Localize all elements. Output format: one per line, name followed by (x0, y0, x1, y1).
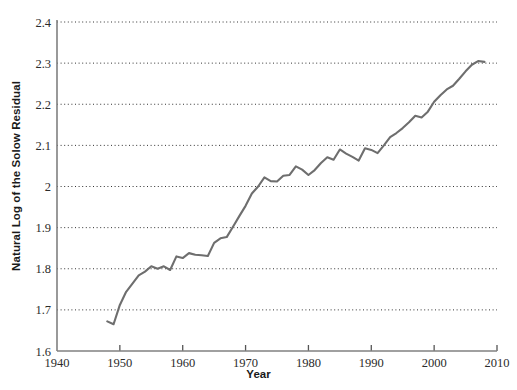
x-tick-label: 1960 (170, 356, 195, 370)
x-tick-label: 2000 (422, 356, 447, 370)
y-tick-labels-group: 1.61.71.81.922.12.22.32.4 (35, 16, 51, 359)
x-tick-labels-group: 19401950196019701980199020002010 (45, 356, 510, 370)
y-tick-label: 1.8 (35, 262, 51, 276)
y-tick-label: 2.1 (35, 139, 51, 153)
gridlines-group (57, 22, 497, 310)
x-tick-label: 1980 (296, 356, 321, 370)
y-tick-label: 2 (45, 180, 51, 194)
y-tick-label: 1.7 (35, 303, 51, 317)
x-tick-marks-group (120, 345, 497, 351)
x-tick-label: 1970 (233, 356, 258, 370)
figure-canvas: Natural Log of the Solow Residual Year 1… (0, 0, 517, 390)
y-tick-label: 2.3 (35, 57, 51, 71)
y-tick-label: 1.9 (35, 221, 51, 235)
x-tick-label: 1950 (107, 356, 132, 370)
x-tick-label: 1990 (359, 356, 384, 370)
line-chart: 1.61.71.81.922.12.22.32.4 19401950196019… (0, 0, 517, 390)
x-tick-label: 1940 (45, 356, 70, 370)
data-line-series (107, 61, 484, 324)
x-tick-label: 2010 (485, 356, 510, 370)
y-tick-label: 2.2 (35, 98, 51, 112)
y-tick-label: 2.4 (35, 16, 51, 30)
